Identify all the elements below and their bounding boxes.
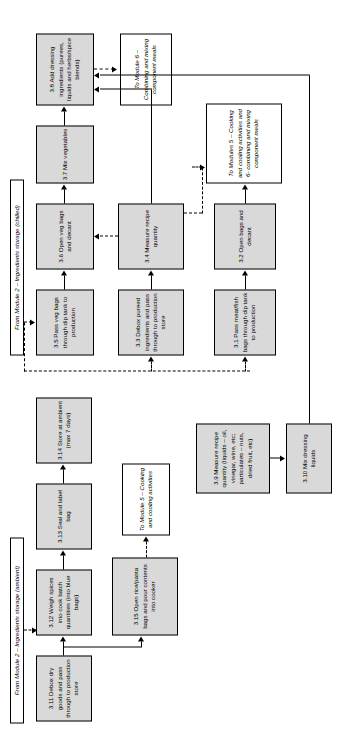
arrow-3-6-to-3-7 [61, 184, 67, 189]
arrow-chilled-to-3-1 [242, 356, 248, 361]
arrow-3-3-to-3-4 [148, 270, 154, 275]
header-ambient-storage-label: From Module 2 – Ingredients storage (amb… [13, 565, 21, 694]
node-3-8[interactable]: 3.8 Add dressing ingredients (purees, li… [36, 33, 94, 105]
node-3-9-label: 3.9 Measure recipe quantity (liquids – o… [212, 426, 254, 490]
diagram-viewport: From Module 2 – Ingredients storage (amb… [0, 0, 340, 743]
arrow-3-9-to-3-10 [280, 455, 285, 461]
arrow-chilled-to-3-3 [148, 356, 154, 361]
arrow-header-chilled-to-3-5 [30, 319, 35, 325]
node-3-12[interactable]: 3.12 Weigh spices into cook batch quanti… [36, 569, 92, 635]
exit-module-6[interactable]: To Module 6 – Combining and mixing compo… [120, 33, 172, 105]
link-3-10-to-3-8-v [100, 74, 310, 75]
node-3-15-label: 3.15 Open rice/pasta bags and pour conte… [132, 560, 157, 632]
arrow-3-4-up [94, 233, 99, 239]
node-3-5-label: 3.5 Pass veg bags through dip tank to pr… [52, 292, 77, 352]
node-3-14-label: 3.14 Store at ambient (max 7 days) [56, 400, 73, 460]
arrow-3-5-to-3-6 [61, 270, 67, 275]
node-3-10[interactable]: 3.10 Mix dressing liquids [286, 423, 332, 493]
flowchart-canvas: From Module 2 – Ingredients storage (amb… [0, 0, 340, 743]
arrow-3-4-to-3-8 [94, 86, 99, 92]
link-3-4-down-h [202, 167, 203, 213]
node-3-2-label: 3.2 Open bags and decant [237, 206, 254, 266]
exit-module-5[interactable]: To Module 5 – Cooking and cooling activi… [122, 463, 170, 535]
link-branch-riser [63, 646, 141, 647]
exit-modules-5-and-6[interactable]: To Modules 5 – Cooking and cooling activ… [206, 103, 282, 183]
arrow-3-15-to-exit-m5 [143, 536, 149, 541]
exit-modules-5-and-6-label: To Modules 5 – Cooking and cooling activ… [227, 106, 260, 180]
node-3-8-label: 3.8 Add dressing ingredients (purees, li… [48, 36, 81, 102]
link-3-6-to-3-7 [64, 189, 65, 203]
node-3-3-label: 3.3 Debox pureed ingredients and pass th… [134, 292, 167, 352]
arrow-3-7-to-3-8 [61, 106, 67, 111]
link-chilled-spine-to-3-1 [245, 361, 246, 371]
link-3-8-to-exit-m6 [94, 68, 114, 69]
link-3-11-to-3-12 [63, 641, 64, 655]
header-ambient-storage: From Module 2 – Ingredients storage (amb… [10, 537, 24, 723]
link-3-4-down [184, 212, 202, 213]
link-3-4-riser [100, 88, 152, 89]
node-3-6-label: 3.6 Open veg bags and decant [57, 206, 74, 266]
node-3-6[interactable]: 3.6 Open veg bags and decant [36, 203, 94, 269]
arrow-3-12-to-3-13 [60, 550, 66, 555]
node-3-14[interactable]: 3.14 Store at ambient (max 7 days) [36, 397, 92, 463]
node-3-5[interactable]: 3.5 Pass veg bags through dip tank to pr… [36, 289, 94, 355]
link-chilled-spine-to-3-5 [24, 322, 25, 371]
link-3-4-right [151, 89, 152, 203]
node-3-1[interactable]: 3.1 Pass meat/fish bags through dip tank… [214, 289, 276, 355]
node-3-4[interactable]: 3.4 Measure recipe quantity [118, 203, 184, 269]
link-chilled-spine-to-3-3 [151, 361, 152, 371]
node-3-7[interactable]: 3.7 Mix vegetables [36, 125, 94, 183]
link-3-9-to-3-10 [270, 457, 280, 458]
arrow-3-1-to-3-2 [242, 270, 248, 275]
link-3-15-to-exit-m5 [146, 541, 147, 557]
node-3-7-label: 3.7 Mix vegetables [61, 128, 69, 180]
exit-module-6-label: To Module 6 – Combining and mixing compo… [133, 36, 158, 102]
link-3-12-to-3-13 [63, 555, 64, 569]
arrow-3-11-to-3-12 [60, 636, 66, 641]
node-3-13[interactable]: 3.13 Seal and label bag [36, 483, 92, 549]
link-3-2-to-exit56 [245, 189, 246, 203]
node-3-15[interactable]: 3.15 Open rice/pasta bags and pour conte… [112, 557, 178, 635]
node-3-4-label: 3.4 Measure recipe quantity [143, 206, 160, 266]
arrow-3-2-to-exit56 [242, 184, 248, 189]
header-chilled-storage-label: From Module 2 – Ingredients storage (chi… [13, 205, 21, 330]
node-3-11-label: 3.11 Debox dry goods and pass through to… [47, 658, 80, 718]
node-3-13-label: 3.13 Seal and label bag [56, 486, 73, 546]
link-branch-to-3-15 [141, 641, 142, 647]
link-3-3-to-3-4 [151, 275, 152, 289]
node-3-1-label: 3.1 Pass meat/fish bags through dip tank… [232, 292, 257, 352]
node-3-3[interactable]: 3.3 Debox pureed ingredients and pass th… [118, 289, 184, 355]
arrow-3-4-to-exit56 [200, 164, 205, 170]
node-3-9[interactable]: 3.9 Measure recipe quantity (liquids – o… [196, 423, 270, 493]
link-3-13-to-3-14 [63, 469, 64, 483]
link-3-1-to-3-2 [245, 275, 246, 289]
link-3-4-up [100, 235, 118, 236]
arrow-3-10-to-3-8 [94, 72, 99, 78]
link-3-7-to-3-8 [64, 111, 65, 125]
arrow-branch-to-3-15 [138, 636, 144, 641]
header-chilled-storage: From Module 2 – Ingredients storage (chi… [10, 179, 24, 355]
exit-module-5-label: To Module 5 – Cooking and cooling activi… [138, 466, 155, 532]
link-3-10-to-3-8-h [309, 75, 310, 423]
node-3-12-label: 3.12 Weigh spices into cook batch quanti… [47, 572, 80, 632]
node-3-2[interactable]: 3.2 Open bags and decant [214, 203, 276, 269]
node-3-10-label: 3.10 Mix dressing liquids [301, 426, 318, 490]
node-3-11[interactable]: 3.11 Debox dry goods and pass through to… [36, 655, 92, 721]
arrow-3-13-to-3-14 [60, 464, 66, 469]
arrow-3-8-to-exit-m6 [112, 66, 117, 72]
arrow-header-ambient-to-3-11 [32, 627, 37, 633]
link-3-5-to-3-6 [64, 275, 65, 289]
link-chilled-spine [24, 370, 250, 371]
